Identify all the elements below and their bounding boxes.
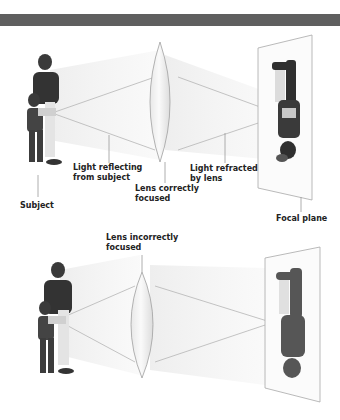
light-beam-incoming-2 [60, 255, 140, 375]
label-line: Lens incorrectly [106, 233, 178, 243]
light-beam-incoming [50, 50, 160, 160]
label-line: focused [135, 194, 199, 204]
label-light-reflecting: Light reflecting from subject [73, 163, 142, 183]
label-line: Light refracted [190, 164, 258, 174]
label-light-refracted: Light refracted by lens [190, 164, 258, 184]
label-subject: Subject [20, 201, 54, 211]
label-lens-incorrect: Lens incorrectly focused [106, 233, 178, 253]
label-line: from subject [73, 173, 142, 183]
label-line: focused [106, 243, 178, 253]
light-beam-outgoing-2 [150, 265, 265, 385]
panel-incorrect-focus [38, 247, 320, 402]
label-lens-correct: Lens correctly focused [135, 184, 199, 204]
label-focal-plane: Focal plane [276, 214, 327, 224]
label-line: Lens correctly [135, 184, 199, 194]
label-line: by lens [190, 174, 258, 184]
label-line: Light reflecting [73, 163, 142, 173]
